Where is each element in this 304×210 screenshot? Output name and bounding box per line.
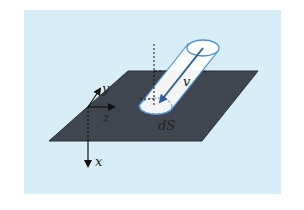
surface-element-label: dS	[158, 118, 175, 133]
z-axis-label: z	[102, 110, 110, 125]
x-axis-label: x	[95, 154, 103, 169]
flux-diagram: y z x v dS	[0, 0, 304, 210]
velocity-label: v	[183, 74, 191, 89]
y-axis-label: y	[101, 81, 110, 96]
